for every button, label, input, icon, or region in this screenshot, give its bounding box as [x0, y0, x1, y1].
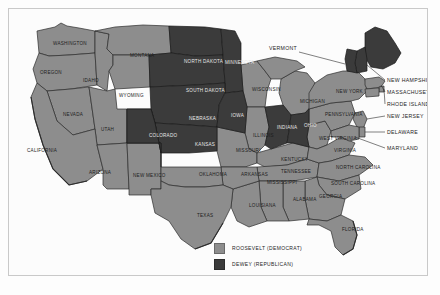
state-label-oklahoma: OKLAHOMA	[199, 172, 228, 177]
state-connecticut[interactable]	[365, 88, 379, 97]
callout-label-delaware: DELAWARE	[387, 129, 418, 135]
state-label-michigan: MICHIGAN	[300, 99, 325, 104]
state-label-texas: TEXAS	[197, 213, 213, 218]
state-label-ohio: OHIO	[304, 123, 317, 128]
legend-item-democrat[interactable]: ROOSEVELT (DEMOCRAT)	[214, 243, 364, 254]
state-label-virginia: VIRGINIA	[334, 148, 357, 153]
map-legend: ROOSEVELT (DEMOCRAT) DEWEY (REPUBLICAN)	[214, 243, 364, 275]
legend-swatch-republican	[214, 259, 225, 270]
callout-label-new-jersey: NEW JERSEY	[387, 113, 424, 119]
legend-item-republican[interactable]: DEWEY (REPUBLICAN)	[214, 259, 364, 270]
state-label-mississippi: MISSISSIPPI	[267, 180, 297, 185]
us-electoral-map[interactable]: WASHINGTONOREGONIDAHOMONTANAWYOMINGNEVAD…	[9, 9, 428, 276]
state-vermont[interactable]	[345, 49, 357, 73]
state-texas[interactable]	[151, 181, 233, 249]
callout-label-vermont: VERMONT	[269, 45, 298, 51]
state-label-illinois: ILLINOIS	[253, 133, 274, 138]
state-label-tennessee: TENNESSEE	[281, 169, 311, 174]
callout-label-rhode-island: RHODE ISLAND	[387, 101, 428, 107]
callout-label-maryland: MARYLAND	[387, 145, 418, 151]
state-label-utah: UTAH	[101, 127, 114, 132]
state-label-nevada: NEVADA	[63, 112, 84, 117]
map-frame: WASHINGTONOREGONIDAHOMONTANAWYOMINGNEVAD…	[8, 8, 428, 276]
state-maine[interactable]	[365, 27, 401, 69]
state-label-new-york: NEW YORK	[336, 89, 364, 94]
state-label-iowa: IOWA	[231, 113, 245, 118]
state-label-pennsylvania: PENNSYLVANIA	[325, 112, 363, 117]
state-label-florida: FLORIDA	[342, 227, 364, 232]
legend-swatch-democrat	[214, 243, 225, 254]
state-label-georgia: GEORGIA	[319, 194, 343, 199]
state-delaware[interactable]	[359, 127, 365, 137]
state-label-washington: WASHINGTON	[53, 41, 87, 46]
state-label-montana: MONTANA	[130, 53, 155, 58]
state-label-minnesota: MINNESOTA	[225, 60, 255, 65]
state-oklahoma[interactable]	[161, 167, 223, 187]
state-label-wyoming: WYOMING	[119, 93, 144, 98]
legend-label-republican: DEWEY (REPUBLICAN)	[232, 259, 293, 270]
state-label-louisiana: LOUISIANA	[249, 203, 276, 208]
state-washington[interactable]	[37, 23, 95, 56]
state-label-arizona: ARIZONA	[89, 170, 112, 175]
state-label-wisconsin: WISCONSIN	[252, 87, 281, 92]
state-label-nebraska: NEBRASKA	[189, 116, 217, 121]
state-label-west-virginia: WEST VIRGINIA	[319, 136, 358, 141]
state-label-arkansas: ARKANSAS	[241, 172, 268, 177]
callout-label-new-hampshire: NEW HAMPSHIRE	[387, 77, 428, 83]
state-label-idaho: IDAHO	[83, 78, 99, 83]
state-label-alabama: ALABAMA	[293, 197, 317, 202]
state-label-north-carolina: NORTH CAROLINA	[336, 165, 381, 170]
scan-caption	[120, 282, 420, 291]
state-label-south-carolina: SOUTH CAROLINA	[331, 181, 376, 186]
state-new-mexico[interactable]	[127, 143, 161, 195]
state-label-new-mexico: NEW MEXICO	[133, 173, 166, 178]
callout-label-massachusetts: MASSACHUSETTS	[387, 89, 428, 95]
state-wyoming[interactable]	[109, 55, 150, 89]
state-label-oregon: OREGON	[40, 70, 62, 75]
state-label-kentucky: KENTUCKY	[281, 157, 308, 162]
state-label-indiana: INDIANA	[277, 125, 298, 130]
state-label-colorado: COLORADO	[149, 133, 177, 138]
state-north-dakota[interactable]	[169, 26, 223, 56]
state-label-kansas: KANSAS	[195, 142, 215, 147]
legend-label-democrat: ROOSEVELT (DEMOCRAT)	[232, 243, 302, 254]
state-label-california: CALIFORNIA	[27, 148, 58, 153]
state-label-north-dakota: NORTH DAKOTA	[184, 59, 224, 64]
page-root: WASHINGTONOREGONIDAHOMONTANAWYOMINGNEVAD…	[0, 0, 440, 295]
state-label-south-dakota: SOUTH DAKOTA	[186, 88, 226, 93]
state-kansas[interactable]	[155, 123, 217, 153]
state-label-missouri: MISSOURI	[236, 148, 261, 153]
